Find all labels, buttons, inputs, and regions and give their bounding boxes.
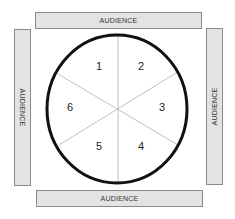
segment-label-5: 5 <box>96 141 102 152</box>
segment-label-4: 4 <box>138 141 144 152</box>
segment-label-3: 3 <box>159 102 165 113</box>
segment-label-2: 2 <box>138 61 144 72</box>
stage-circle-diagram <box>0 0 235 219</box>
segment-label-1: 1 <box>96 61 102 72</box>
segment-label-6: 6 <box>67 102 73 113</box>
